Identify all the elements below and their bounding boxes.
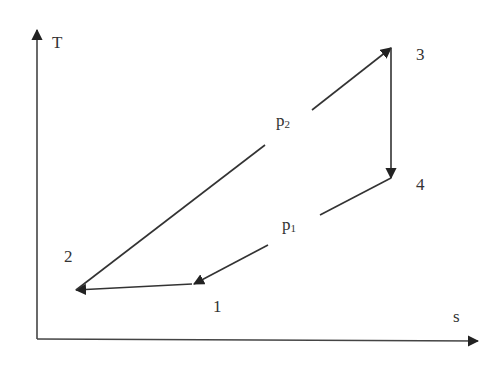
process-4-1-lower xyxy=(194,245,268,284)
cycle-processes xyxy=(76,48,391,290)
point-label-4: 4 xyxy=(416,175,425,194)
point-label-1: 1 xyxy=(213,297,222,316)
isobar-p2-symbol: p xyxy=(276,111,285,130)
isobar-p2-subscript: 2 xyxy=(285,118,291,130)
isobar-label-p1: p1 xyxy=(282,215,296,234)
isobar-p1-subscript: 1 xyxy=(291,222,297,234)
isobar-p1-symbol: p xyxy=(282,215,291,234)
y-axis-label: T xyxy=(52,33,63,52)
process-1-2 xyxy=(76,284,192,290)
process-2-3-lower xyxy=(76,145,265,290)
t-s-diagram: T s 1 2 3 4 p2 p1 xyxy=(0,0,501,367)
x-axis-label: s xyxy=(453,307,460,326)
point-label-3: 3 xyxy=(416,45,425,64)
isobar-label-p2: p2 xyxy=(276,111,290,130)
state-point-labels: 1 2 3 4 xyxy=(64,45,425,316)
point-label-2: 2 xyxy=(64,247,73,266)
process-4-1-upper xyxy=(320,178,391,215)
axes: T s xyxy=(37,30,478,341)
isobar-labels: p2 p1 xyxy=(276,111,296,234)
x-axis xyxy=(37,339,478,341)
process-2-3-upper xyxy=(312,48,391,110)
